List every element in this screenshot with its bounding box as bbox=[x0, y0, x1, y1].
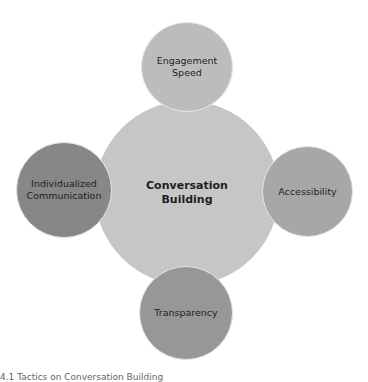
satellite-node-accessibility: Accessibility bbox=[262, 146, 353, 237]
center-node-label-line1: Conversation bbox=[146, 179, 228, 193]
center-node-label-line2: Building bbox=[146, 193, 228, 207]
satellite-node-engagement-speed: Engagement Speed bbox=[141, 22, 233, 112]
satellite-node-individualized-communication: Individualized Communication bbox=[16, 142, 112, 238]
satellite-label-line1: Transparency bbox=[154, 307, 217, 319]
satellite-label-line1: Accessibility bbox=[278, 186, 336, 198]
satellite-label-line2: Communication bbox=[27, 190, 102, 202]
satellite-label-line2: Speed bbox=[157, 67, 218, 79]
satellite-node-transparency: Transparency bbox=[139, 266, 233, 360]
figure-caption: 4.1 Tactics on Conversation Building bbox=[0, 372, 163, 382]
center-node-conversation-building: Conversation Building bbox=[95, 101, 279, 285]
satellite-label-line1: Engagement bbox=[157, 55, 218, 67]
satellite-label-line1: Individualized bbox=[27, 178, 102, 190]
